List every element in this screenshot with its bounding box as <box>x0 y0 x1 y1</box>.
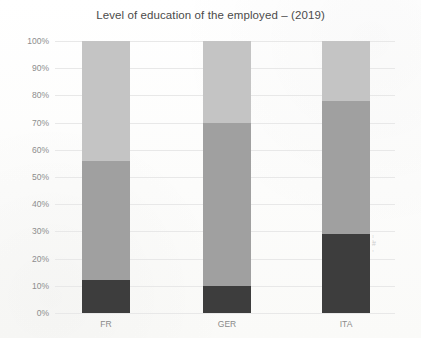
bar-ger <box>203 41 251 313</box>
bar-segment-low <box>322 234 370 313</box>
y-axis-tick-label: 70% <box>9 118 49 128</box>
y-axis-tick-label: 0% <box>9 308 49 318</box>
bar-segment-low <box>203 286 251 313</box>
y-axis-tick-label: 20% <box>9 254 49 264</box>
y-axis-tick-label: 100% <box>9 36 49 46</box>
y-axis-tick-label: 30% <box>9 226 49 236</box>
bar-segment-low <box>82 280 130 313</box>
x-axis-tick-label-fr: FR <box>61 319 151 329</box>
x-axis-tick-label-ita: ITA <box>301 319 391 329</box>
y-axis-tick-label: 40% <box>9 199 49 209</box>
bar-ita <box>322 41 370 313</box>
bar-segment-high <box>82 41 130 161</box>
y-axis-tick-label: 50% <box>9 172 49 182</box>
plot-area <box>55 41 395 313</box>
page-title: Level of education of the employed – (20… <box>0 9 421 21</box>
y-axis-tick-label: 90% <box>9 63 49 73</box>
bar-fr <box>82 41 130 313</box>
x-axis-tick-label-ger: GER <box>182 319 272 329</box>
bar-segment-medium <box>82 161 130 281</box>
y-axis-tick-label: 60% <box>9 145 49 155</box>
bar-segment-medium <box>322 101 370 234</box>
chart-page: Level of education of the employed – (20… <box>0 0 421 338</box>
gridline <box>55 313 395 314</box>
y-axis-tick-label: 80% <box>9 90 49 100</box>
bar-segment-medium <box>203 123 251 286</box>
bar-segment-high <box>322 41 370 101</box>
y-axis-tick-label: 10% <box>9 281 49 291</box>
bar-segment-high <box>203 41 251 123</box>
